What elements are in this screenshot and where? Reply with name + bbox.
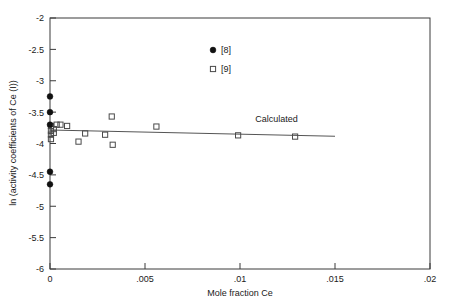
- y-tick-label: -3.5: [28, 108, 44, 118]
- data-point-marker: [293, 134, 298, 139]
- y-tick-label: -4.5: [28, 170, 44, 180]
- x-tick-label: .015: [326, 274, 344, 284]
- x-tick-label: .005: [136, 274, 154, 284]
- data-point-marker: [154, 124, 159, 129]
- y-axis-title: ln (activity coefficients of Ce (I)): [8, 80, 18, 205]
- data-point-marker: [47, 94, 53, 100]
- data-point-marker: [47, 122, 53, 128]
- y-tick-label: -5: [36, 202, 44, 212]
- data-point-marker: [103, 132, 108, 137]
- data-point-marker: [65, 123, 70, 128]
- legend-marker: [210, 66, 215, 71]
- y-tick-label: -4: [36, 139, 44, 149]
- x-axis-title: Mole fraction Ce: [207, 288, 273, 298]
- data-point-marker: [83, 131, 88, 136]
- plot-frame: [50, 18, 430, 269]
- x-axis-ticks: [50, 263, 430, 269]
- y-axis-tick-labels: -2-2.5-3-3.5-4-4.5-5-5.5-6: [28, 13, 44, 274]
- data-point-marker: [47, 181, 53, 187]
- data-point-marker: [58, 122, 63, 127]
- chart-figure: -2-2.5-3-3.5-4-4.5-5-5.5-6 0.005.01.015.…: [0, 0, 450, 306]
- legend: [8][9]: [210, 45, 231, 74]
- data-point-marker: [110, 142, 115, 147]
- x-tick-label: 0: [47, 274, 52, 284]
- legend-marker: [210, 47, 216, 53]
- legend-label: [9]: [221, 64, 231, 74]
- y-tick-label: -3: [36, 76, 44, 86]
- data-point-marker: [47, 109, 53, 115]
- y-axis-ticks: [50, 18, 56, 269]
- y-tick-label: -2.5: [28, 45, 44, 55]
- y-tick-label: -6: [36, 264, 44, 274]
- x-axis-tick-labels: 0.005.01.015.02: [47, 274, 436, 284]
- x-tick-label: .01: [234, 274, 247, 284]
- y-tick-label: -5.5: [28, 233, 44, 243]
- data-point-marker: [236, 133, 241, 138]
- y-tick-label: -2: [36, 13, 44, 23]
- x-tick-label: .02: [424, 274, 437, 284]
- data-point-marker: [47, 169, 53, 175]
- calculated-line-label: Calculated: [255, 114, 298, 124]
- data-point-marker: [76, 139, 81, 144]
- legend-label: [8]: [221, 45, 231, 55]
- scatter-plot-svg: -2-2.5-3-3.5-4-4.5-5-5.5-6 0.005.01.015.…: [0, 0, 450, 306]
- data-point-marker: [109, 114, 114, 119]
